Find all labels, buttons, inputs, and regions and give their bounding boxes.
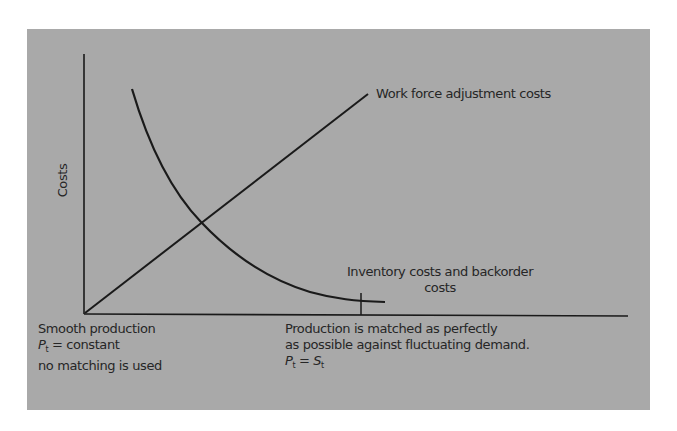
s-symbol: S <box>313 353 321 368</box>
inventory-cost-label-line1: Inventory costs and backorder <box>330 264 550 280</box>
smooth-production-line1: Smooth production <box>38 321 162 337</box>
equals-sign: = <box>295 353 313 368</box>
workforce-cost-label: Work force adjustment costs <box>376 86 551 102</box>
workforce-cost-line <box>85 94 368 313</box>
smooth-production-line3: no matching is used <box>38 358 162 374</box>
smooth-production-label: Smooth production Pt = constant no match… <box>38 321 162 374</box>
inventory-cost-label-line2: costs <box>330 280 550 296</box>
s-subscript: t <box>321 361 324 370</box>
smooth-production-formula: Pt = constant <box>38 337 162 358</box>
y-axis-label: Costs <box>55 164 70 198</box>
x-axis <box>84 314 628 316</box>
equals-constant: = constant <box>48 337 119 352</box>
matched-production-line1: Production is matched as perfectly <box>285 321 529 337</box>
matched-production-label: Production is matched as perfectly as po… <box>285 321 529 374</box>
matched-production-formula: Pt = St <box>285 353 529 374</box>
matched-production-line2: as possible against fluctuating demand. <box>285 337 529 353</box>
inventory-cost-label: Inventory costs and backorder costs <box>330 264 550 296</box>
